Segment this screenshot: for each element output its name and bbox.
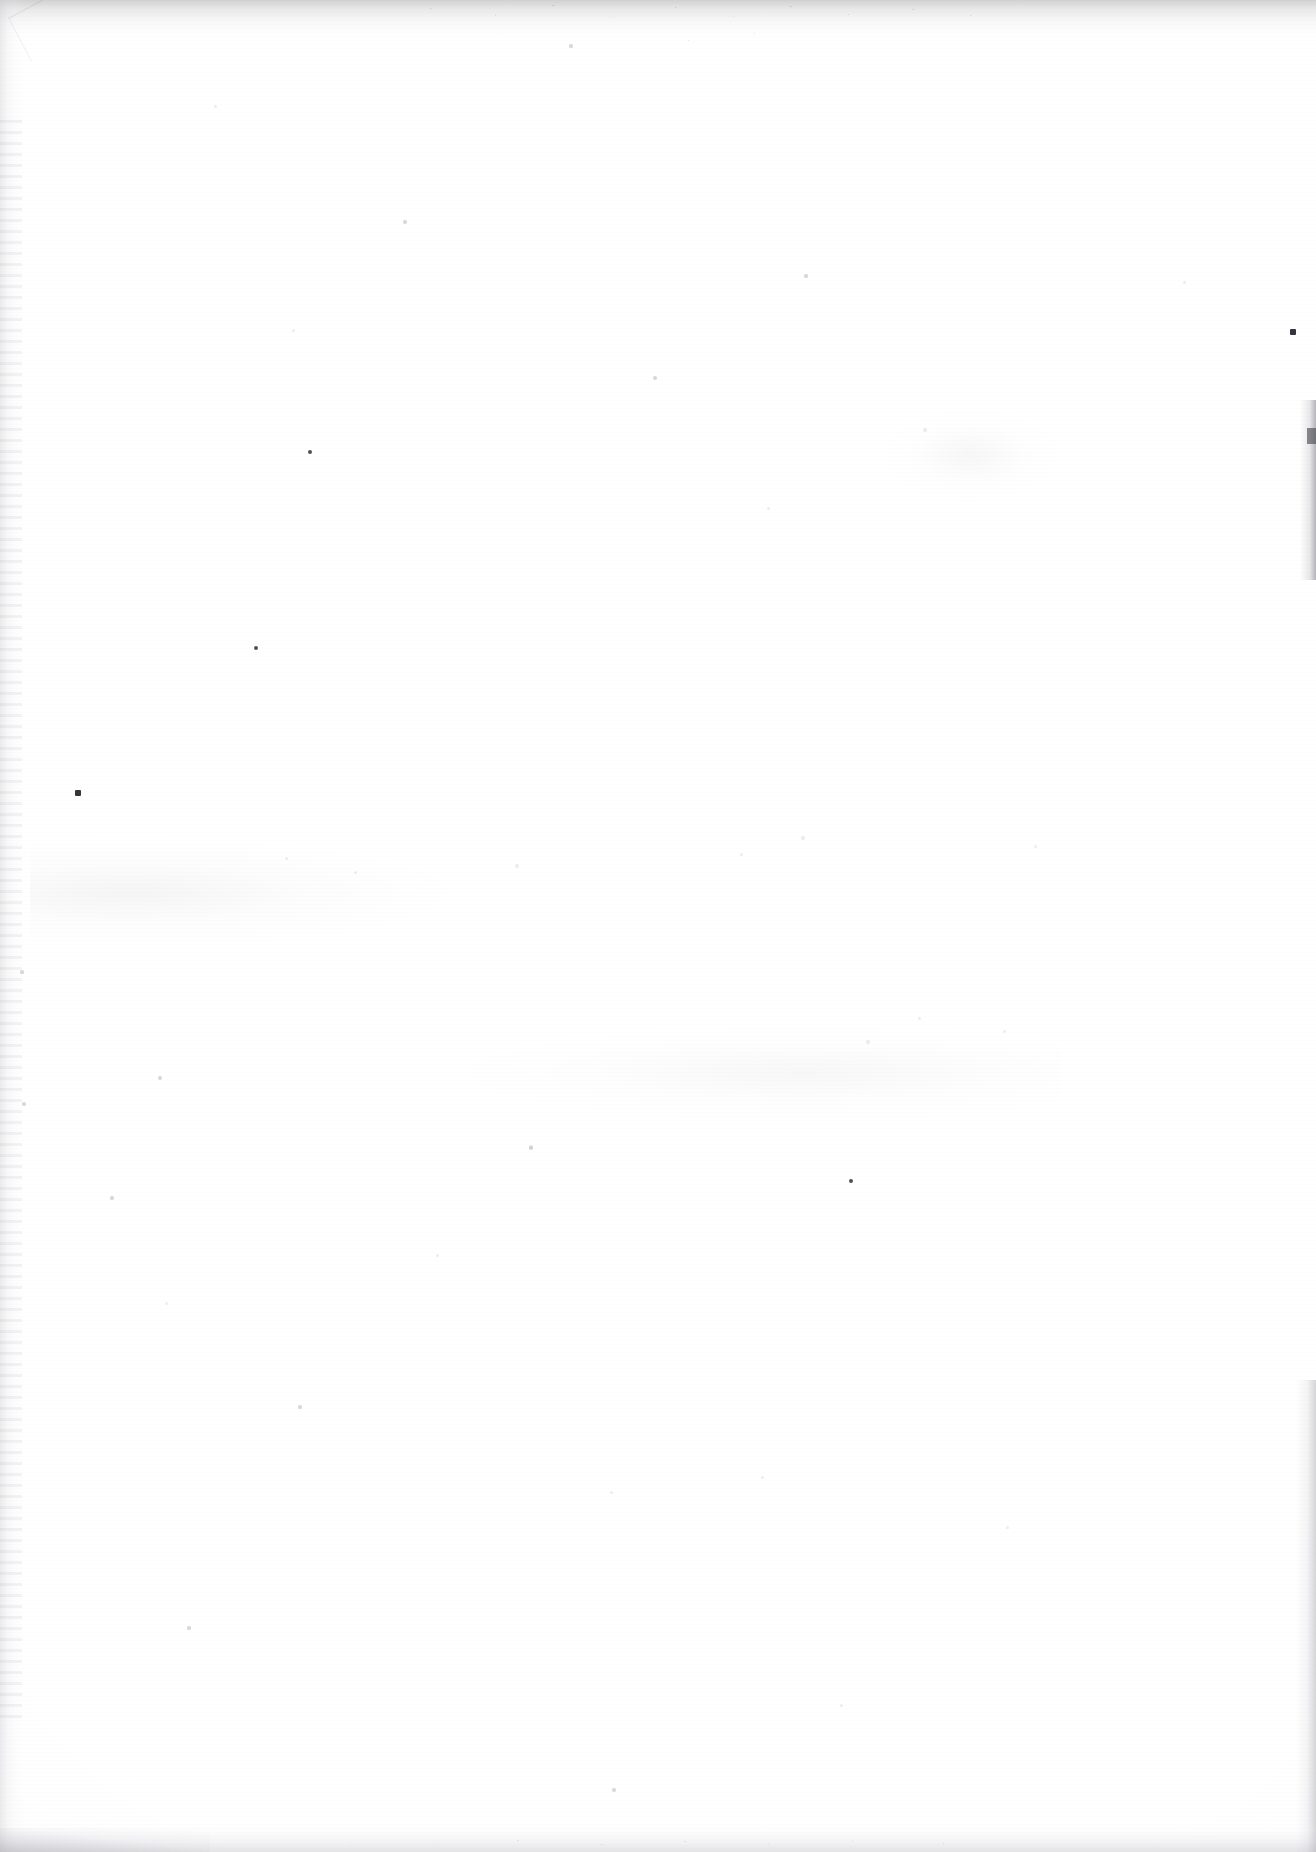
top-edge-speckle-secondary	[420, 22, 860, 52]
bottom-edge-speckle	[290, 1834, 1050, 1850]
left-gutter-mottle	[0, 120, 22, 1720]
bleedthrough-smudge-center	[420, 1020, 1060, 1130]
right-page-curl-shadow-lower	[1296, 1380, 1316, 1852]
bleedthrough-smudge-left	[30, 830, 590, 950]
scanned-page: Blank scanned page. No text, headings, f…	[0, 0, 1316, 1852]
right-page-curl-shadow-upper	[1300, 400, 1316, 580]
bottom-left-corner-smudge	[0, 1828, 210, 1852]
bleedthrough-smudge-upper-right	[880, 400, 1060, 510]
right-margin-nub	[1307, 428, 1316, 444]
